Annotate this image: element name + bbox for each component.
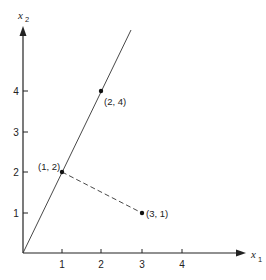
dashed-line bbox=[62, 172, 142, 213]
point-label: (3, 1) bbox=[146, 208, 168, 219]
point-marker-icon bbox=[60, 170, 64, 174]
svg-text:x: x bbox=[250, 248, 256, 260]
svg-text:x: x bbox=[17, 9, 23, 21]
y-tick-label: 2 bbox=[13, 167, 19, 178]
y-tick-label: 3 bbox=[13, 127, 19, 138]
x-tick-label: 3 bbox=[139, 259, 145, 270]
x-tick-label: 4 bbox=[179, 259, 185, 270]
y-ticks: 1 2 3 4 bbox=[13, 86, 28, 219]
x-ticks: 1 2 3 4 bbox=[59, 249, 185, 270]
diagram-canvas: 1 2 3 4 1 2 3 4 x 1 x 2 (2, 4) (1, 2) (3… bbox=[0, 0, 266, 280]
y-tick-label: 1 bbox=[13, 208, 19, 219]
x-tick-label: 1 bbox=[59, 259, 65, 270]
x-axis bbox=[23, 250, 246, 257]
point-marker-icon bbox=[140, 211, 144, 215]
point-1-2: (1, 2) bbox=[38, 161, 64, 174]
svg-text:1: 1 bbox=[258, 255, 262, 264]
y-axis bbox=[20, 26, 27, 253]
svg-text:2: 2 bbox=[25, 15, 29, 24]
point-label: (1, 2) bbox=[38, 161, 60, 172]
x-axis-label: x 1 bbox=[250, 248, 262, 264]
point-3-1: (3, 1) bbox=[140, 208, 168, 219]
y-tick-label: 4 bbox=[13, 86, 19, 97]
x-axis-arrow-icon bbox=[236, 250, 246, 257]
y-axis-label: x 2 bbox=[17, 9, 29, 24]
solid-line bbox=[23, 30, 131, 253]
point-2-4: (2, 4) bbox=[99, 89, 126, 107]
x-tick-label: 2 bbox=[98, 259, 104, 270]
point-marker-icon bbox=[99, 89, 103, 93]
y-axis-arrow-icon bbox=[20, 26, 27, 36]
point-label: (2, 4) bbox=[104, 96, 126, 107]
